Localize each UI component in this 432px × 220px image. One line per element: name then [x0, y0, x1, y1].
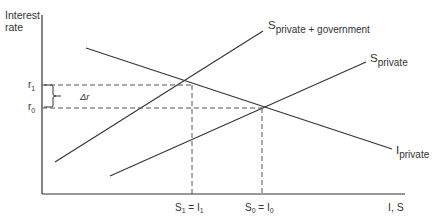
y-axis-label: Interest — [5, 9, 40, 21]
y-axis-label-2: rate — [5, 21, 23, 33]
r0-label: r0 — [28, 101, 35, 114]
delta-r-brace — [44, 85, 61, 107]
i-private-curve — [86, 48, 392, 149]
s-private-government-label: Sprivate + government — [268, 19, 370, 35]
s-private-label: Sprivate — [370, 52, 408, 68]
s1-equals-i1-label: S1 = I1 — [175, 202, 204, 214]
x-axis-label: I, S — [388, 201, 404, 213]
r1-label: r1 — [28, 79, 35, 92]
s-private-curve — [110, 62, 366, 176]
s0-equals-i0-label: S0 = I0 — [245, 202, 274, 214]
i-private-label: Iprivate — [396, 144, 430, 160]
delta-r-label: Δr — [79, 91, 90, 102]
loanable-funds-diagram: Interest rate r1 r0 Δr Sprivate + govern… — [0, 0, 432, 220]
